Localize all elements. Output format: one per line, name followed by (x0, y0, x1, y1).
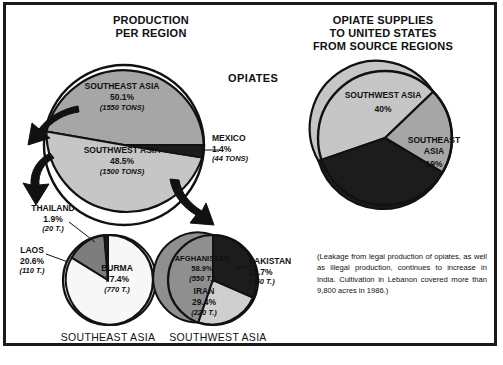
iran-label: IRAN 29.4% (220 T.) (178, 286, 230, 318)
southwest-asia-caption: SOUTHWEST ASIA (138, 331, 298, 343)
supplies-southwest-asia-label: SOUTHWEST ASIA 40% (331, 90, 435, 115)
laos-pct: 20.6% (20, 256, 44, 266)
supplies-sw-name: SOUTHWEST ASIA (345, 90, 422, 100)
sw-asia-pct: 48.5% (110, 156, 134, 166)
afghanistan-name: AFGHANISTAN (175, 254, 230, 263)
iran-tons: (220 T.) (178, 308, 230, 318)
thailand-pct: 1.9% (43, 214, 62, 224)
mexico-pct: 1.4% (212, 144, 231, 154)
sw-asia-name: SOUTHWEST ASIA (84, 145, 161, 155)
se-asia-name: SOUTHEAST ASIA (85, 81, 160, 91)
laos-tons: (110 T.) (10, 266, 54, 275)
pakistan-name: PAKISTAN (249, 256, 291, 266)
se-asia-pct: 50.1% (110, 92, 134, 102)
footnote-text: (Leakage from legal production of opiate… (317, 251, 487, 297)
iran-name: IRAN (194, 286, 215, 296)
production-title-line-1: PRODUCTION (61, 14, 241, 27)
production-per-region-title: PRODUCTION PER REGION (61, 14, 241, 40)
pakistan-label: PAKISTAN 11.7% (150 T.) (249, 256, 313, 287)
afghanistan-tons: (550 T.) (164, 274, 240, 284)
mexico-tons: (44 TONS) (212, 154, 274, 163)
production-title-line-2: PER REGION (61, 27, 241, 40)
opiates-infographic-page: PRODUCTION PER REGION OPIATE SUPPLIES TO… (0, 0, 503, 365)
pakistan-tons: (150 T.) (249, 277, 313, 286)
burma-name: BURMA (101, 263, 133, 273)
arrow-to-southwest-asia (162, 177, 224, 235)
opiate-supplies-title: OPIATE SUPPLIES TO UNITED STATES FROM SO… (278, 14, 488, 52)
laos-name: LAOS (20, 245, 44, 255)
arrow-to-southeast-asia-lower (20, 151, 64, 209)
supplies-title-line-3: FROM SOURCE REGIONS (278, 40, 488, 53)
thailand-tons: (20 T.) (20, 224, 86, 233)
iran-pct: 29.4% (192, 297, 216, 307)
burma-label: BURMA 77.4% (770 T.) (90, 263, 144, 295)
supplies-se-name-line1: SOUTHEAST (408, 135, 460, 145)
supplies-se-name-line2: ASIA (424, 146, 444, 156)
supplies-title-line-2: TO UNITED STATES (278, 27, 488, 40)
thailand-label: THAILAND 1.9% (20 T.) (20, 203, 86, 234)
burma-tons: (770 T.) (90, 285, 144, 295)
burma-pct: 77.4% (105, 274, 129, 284)
supplies-title-line-1: OPIATE SUPPLIES (278, 14, 488, 27)
mexico-label: MEXICO 1.4% (44 TONS) (212, 133, 274, 164)
sw-asia-tons: (1500 TONS) (52, 167, 192, 177)
opiates-heading: OPIATES (228, 72, 278, 84)
arrow-to-southeast-asia (22, 103, 82, 149)
production-sw-asia-label: SOUTHWEST ASIA 48.5% (1500 TONS) (52, 145, 192, 177)
mexico-name: MEXICO (212, 133, 246, 143)
thailand-name: THAILAND (31, 203, 74, 213)
afghanistan-label: AFGHANISTAN 58.9% (550 T.) (164, 254, 240, 283)
supplies-sw-pct: 40% (374, 104, 391, 115)
afghanistan-pct: 58.9% (191, 264, 213, 273)
poster-frame: PRODUCTION PER REGION OPIATE SUPPLIES TO… (3, 2, 497, 346)
supplies-se-pct: 19% (425, 159, 442, 170)
pakistan-pct: 11.7% (249, 267, 273, 277)
laos-label: LAOS 20.6% (110 T.) (10, 245, 54, 276)
supplies-southeast-asia-label: SOUTHEAST ASIA 19% (404, 135, 464, 170)
